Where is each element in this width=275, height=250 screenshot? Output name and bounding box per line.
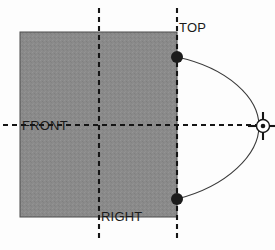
diagram-canvas: TOP FRONT RIGHT [0,0,275,250]
vertex-dot-top[interactable] [171,51,183,63]
orientation-diagram-svg: TOP FRONT RIGHT [0,0,275,250]
rotation-arc-path [177,57,259,199]
target-center-dot [261,124,266,129]
label-top: TOP [179,20,206,35]
vertex-dot-bottom[interactable] [171,193,183,205]
label-right: RIGHT [101,209,142,224]
view-target-crosshair[interactable] [248,112,275,140]
label-front: FRONT [22,118,68,133]
